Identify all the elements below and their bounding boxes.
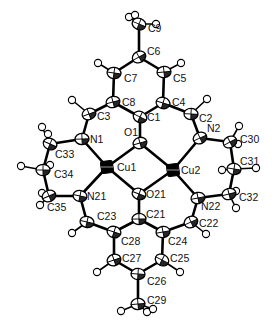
atom-label-C9: C9: [148, 22, 162, 34]
atom-label-C21: C21: [146, 208, 165, 220]
atom-label-N21: N21: [87, 190, 106, 202]
atom-label-C5: C5: [173, 72, 187, 84]
atom-label-O1: O1: [124, 126, 138, 138]
atom-label-C29: C29: [147, 294, 166, 306]
atom-label-C1: C1: [147, 111, 161, 123]
atom-label-N22: N22: [201, 200, 220, 212]
atom-label-C8: C8: [122, 96, 136, 108]
atom-C28: [106, 225, 123, 240]
atom-C8: [105, 95, 121, 109]
atom-label-C34: C34: [54, 168, 73, 180]
atom-C34: [36, 164, 50, 175]
hydrogen-atom-C29: [117, 307, 124, 314]
atom-label-Cu1: Cu1: [117, 161, 136, 173]
molecular-structure-diagram: Cu1Cu2O1O21N1N2N21N22C1C2C3C4C5C6C7C8C9C…: [0, 0, 277, 334]
atom-label-C30: C30: [240, 133, 259, 145]
atom-label-C24: C24: [168, 235, 187, 247]
atom-C21: [132, 213, 146, 224]
atom-C2: [184, 108, 199, 120]
atom-C4: [155, 96, 172, 111]
atom-Cu1: [100, 160, 114, 174]
atom-C6: [130, 49, 148, 66]
hydrogen-atom-C23: [68, 229, 75, 236]
atom-label-C28: C28: [121, 235, 140, 247]
atom-label-N1: N1: [90, 133, 104, 145]
hydrogen-atom-C29: [149, 305, 156, 312]
atom-label-C23: C23: [97, 210, 116, 222]
atom-label-C31: C31: [240, 155, 259, 167]
atom-label-C6: C6: [147, 45, 161, 57]
atom-Cu2: [166, 163, 180, 177]
atoms: [36, 16, 242, 310]
hydrogen-atom-C30: [235, 122, 242, 129]
atom-label-C22: C22: [199, 217, 218, 229]
atom-C26: [131, 268, 146, 280]
atom-label-C26: C26: [147, 275, 166, 287]
atom-C30: [221, 134, 239, 150]
atom-label-C7: C7: [124, 72, 138, 84]
hydrogen-atom-C7: [94, 59, 101, 66]
hydrogen-atom-C9: [131, 11, 138, 18]
atom-label-Cu2: Cu2: [181, 164, 200, 176]
atom-C25: [153, 252, 171, 268]
atom-label-C32: C32: [239, 191, 258, 203]
hydrogen-atom-C2: [203, 95, 210, 102]
atom-label-C33: C33: [55, 148, 74, 160]
atom-label-C27: C27: [122, 252, 141, 264]
atom-label-C4: C4: [172, 96, 186, 108]
hydrogen-atom-C32: [232, 204, 239, 211]
hydrogen-atom-C5: [177, 59, 184, 66]
hydrogen-atom-C35: [36, 201, 43, 208]
atom-label-O21: O21: [146, 188, 166, 200]
atom-C29: [131, 298, 146, 310]
hydrogen-atom-C3: [68, 96, 75, 103]
hydrogen-atom-C27: [93, 268, 100, 275]
atom-label-C35: C35: [47, 201, 66, 213]
hydrogen-atom-C33: [44, 130, 51, 137]
hydrogen-atom-C31: [218, 166, 225, 173]
atom-label-C25: C25: [170, 252, 189, 264]
atom-C27: [106, 252, 123, 267]
hydrogen-atom-C25: [176, 268, 183, 275]
hydrogen-atom-C34: [17, 162, 24, 169]
hydrogen-atom-C22: [202, 230, 209, 237]
atom-label-C2: C2: [199, 112, 213, 124]
atom-N1: [75, 133, 89, 145]
hydrogen-atom-C33: [38, 123, 45, 130]
atom-label-C3: C3: [97, 110, 111, 122]
